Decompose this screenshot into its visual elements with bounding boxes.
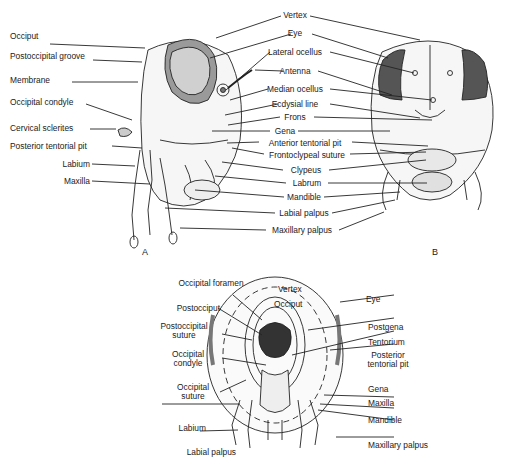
label-maxilla: Maxilla <box>30 177 90 186</box>
label-maxillary-palpus-c: Maxillary palpus <box>368 441 428 450</box>
panel-letter-a: A <box>142 247 148 257</box>
label-occipital-suture: Occipital suture <box>165 383 221 401</box>
label-postoccipital-suture: Postoccipital suture <box>148 322 220 340</box>
label-occiput: Occiput <box>10 32 38 41</box>
label-occipital-condyle-c: Occipital condyle <box>160 350 216 368</box>
label-posterior-tentorial-pit: Posterior tentorial pit <box>10 142 87 151</box>
label-membrane: Membrane <box>10 76 50 85</box>
label-occipital-condyle: Occipital condyle <box>10 98 73 107</box>
label-vertex: Vertex <box>245 11 345 20</box>
label-gena: Gena <box>235 127 335 136</box>
label-labial-palpus-c: Labial palpus <box>140 448 236 457</box>
label-eye: Eye <box>245 29 345 38</box>
label-gena-c: Gena <box>368 385 389 394</box>
label-postocciput: Postocciput <box>150 304 220 313</box>
label-ecdysial-line: Ecdysial line <box>245 100 345 109</box>
label-clypeus: Clypeus <box>256 166 356 175</box>
label-lateral-ocellus: Lateral ocellus <box>245 48 345 57</box>
label-postgena: Postgena <box>368 323 403 332</box>
label-labrum: Labrum <box>257 179 357 188</box>
label-occipital-foramen: Occipital foramen <box>176 279 246 288</box>
label-tentorium: Tentorium <box>368 338 405 347</box>
label-antenna: Antenna <box>245 67 345 76</box>
label-cervical-sclerites: Cervical sclerites <box>10 124 73 133</box>
panel-letter-b: B <box>432 247 438 257</box>
label-mandible: Mandible <box>254 193 354 202</box>
label-occiput-c: Occiput <box>274 300 302 309</box>
label-frons: Frons <box>245 113 345 122</box>
label-posterior-tentorial-pit-c: Posterior tentorial pit <box>362 351 414 369</box>
label-mandible-c: Mandible <box>368 416 402 425</box>
label-frontoclypeal-suture: Frontoclypeal suture <box>257 151 357 160</box>
label-vertex-c: Vertex <box>278 285 302 294</box>
label-anterior-tentorial-pit: Anterior tentorial pit <box>255 139 355 148</box>
label-postoccipital-groove: Postoccipital groove <box>10 52 85 61</box>
label-labial-palpus: Labial palpus <box>254 209 354 218</box>
label-labium-c: Labium <box>160 424 206 433</box>
label-median-ocellus: Median ocellus <box>245 85 345 94</box>
label-maxilla-c: Maxilla <box>368 399 394 408</box>
label-maxillary-palpus: Maxillary palpus <box>252 226 352 235</box>
label-labium: Labium <box>30 160 90 169</box>
label-eye-c: Eye <box>366 295 380 304</box>
